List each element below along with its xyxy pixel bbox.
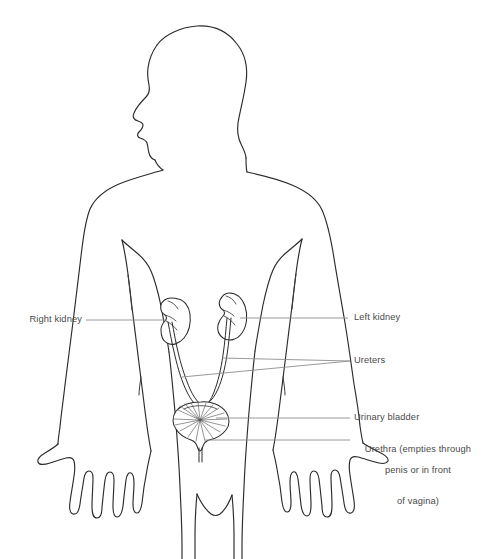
left-kidney-outline — [218, 293, 247, 340]
arm-left-inner — [122, 240, 151, 451]
bladder-outline — [173, 402, 229, 451]
crease-right-arm — [292, 274, 296, 309]
leg-right-outer — [242, 351, 255, 559]
label-urethra-line-1: Urethra (empties through — [365, 444, 471, 454]
urinary-system-diagram: Right kidney Left kidney Ureters Urinary… — [0, 0, 485, 559]
arm-left-outer — [58, 170, 163, 444]
crease-left-forearm — [139, 377, 141, 395]
left-kidney — [218, 293, 247, 340]
neck-right — [246, 158, 247, 172]
thigh-right-inner — [232, 495, 234, 559]
leg-left-outer — [169, 352, 182, 559]
arm-right-outer — [247, 172, 363, 443]
urinary-bladder — [173, 402, 229, 451]
leader-ureter-right — [182, 361, 350, 377]
label-urethra-line-2: penis or in front — [354, 465, 482, 475]
crease-left-arm — [128, 275, 132, 310]
label-right-kidney: Right kidney — [6, 314, 82, 324]
head-outline — [157, 26, 247, 158]
body-silhouette — [38, 26, 388, 559]
right-kidney — [161, 298, 191, 344]
label-urethra: Urethra (empties through penis or in fro… — [354, 434, 482, 528]
label-ureters: Ureters — [354, 355, 474, 365]
neck-left — [155, 160, 163, 170]
hand-left-outline — [38, 444, 151, 518]
thigh-left-inner — [195, 494, 197, 559]
face-profile — [133, 45, 157, 160]
crotch-inner-thigh — [197, 494, 232, 516]
label-urethra-line-3: of vagina) — [354, 496, 482, 506]
crease-right-forearm — [283, 377, 285, 395]
label-left-kidney: Left kidney — [354, 312, 474, 322]
label-urinary-bladder: Urinary bladder — [354, 412, 474, 422]
torso-right-flank — [255, 239, 302, 351]
